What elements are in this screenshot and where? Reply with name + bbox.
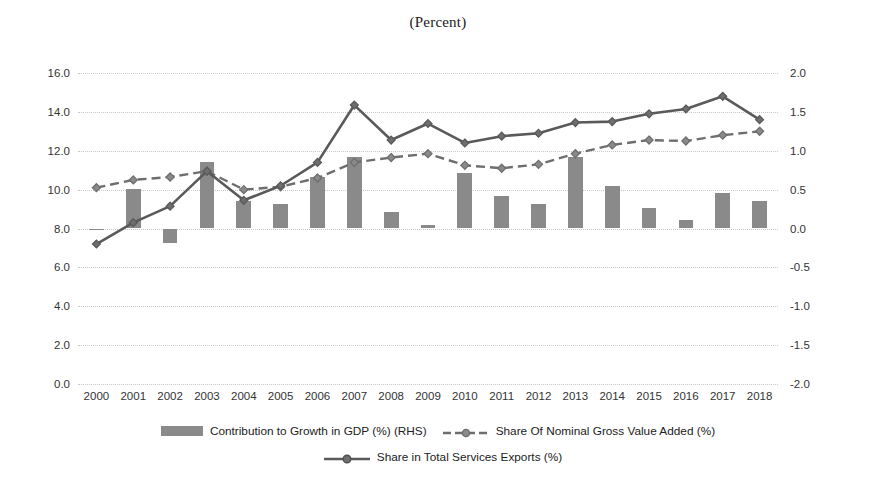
chart-root: (Percent) 16.014.012.010.08.06.04.02.00.… [0,0,876,504]
legend-label-contribution-to-growth: Contribution to Growth in GDP (%) (RHS) [210,424,427,438]
x-axis-tick-2015: 2015 [636,390,662,402]
data-point-2011[interactable] [498,132,506,140]
y-axis-left-tick: 10.0 [48,184,70,196]
chart-legend: Contribution to Growth in GDP (%) (RHS) … [0,418,876,470]
y-axis-right-tick: -1.5 [790,339,810,351]
y-axis-right-tick: -0.5 [790,261,810,273]
x-axis-tick-2018: 2018 [747,390,773,402]
data-point-2012[interactable] [535,129,543,137]
data-point-2000[interactable] [92,184,100,192]
bar-swatch-icon [161,426,203,436]
legend-item-contribution-to-growth[interactable]: Contribution to Growth in GDP (%) (RHS) [161,424,427,438]
x-axis-tick-2016: 2016 [673,390,699,402]
data-point-2008[interactable] [387,154,395,162]
x-axis-tick-2004: 2004 [231,390,257,402]
data-point-2014[interactable] [608,118,616,126]
x-axis-tick-2009: 2009 [415,390,441,402]
plot-area [78,73,778,384]
y-axis-right-tick: 1.5 [790,106,806,118]
line-series-layer [78,73,778,384]
data-point-2010[interactable] [461,161,469,169]
y-axis-right-tick: 1.0 [790,145,806,157]
x-axis-tick-2012: 2012 [526,390,552,402]
dashed-diamond-line-icon [443,425,489,437]
data-point-2009[interactable] [424,150,432,158]
line-path [96,96,759,244]
y-axis-right-tick: 2.0 [790,67,806,79]
y-axis-right-tick: 0.5 [790,184,806,196]
y-axis-right: 2.01.51.00.50.0-0.5-1.0-1.5-2.0 [790,73,836,384]
y-axis-left-tick: 12.0 [48,145,70,157]
y-axis-left: 16.014.012.010.08.06.04.02.00.0 [28,73,70,384]
data-point-2004[interactable] [240,186,248,194]
data-point-2013[interactable] [571,150,579,158]
x-axis-tick-2017: 2017 [710,390,736,402]
y-axis-right-tick: 0.0 [790,223,806,235]
x-axis-labels: 2000200120022003200420052006200720082009… [78,390,778,410]
data-point-2002[interactable] [166,173,174,181]
x-axis-tick-2005: 2005 [268,390,294,402]
legend-row-1: Contribution to Growth in GDP (%) (RHS) … [0,418,876,444]
y-axis-left-tick: 2.0 [54,339,70,351]
legend-item-nominal-gross-value-added[interactable]: Share Of Nominal Gross Value Added (%) [443,424,715,438]
data-point-2012[interactable] [535,160,543,168]
y-axis-left-tick: 6.0 [54,261,70,273]
y-axis-right-tick: -1.0 [790,300,810,312]
y-axis-left-tick: 14.0 [48,106,70,118]
legend-row-2: Share in Total Services Exports (%) [0,444,876,470]
data-point-2015[interactable] [645,110,653,118]
x-axis-tick-2003: 2003 [194,390,220,402]
y-axis-left-tick: 16.0 [48,67,70,79]
line-series-total-services-exports [93,92,764,248]
data-point-2006[interactable] [313,174,321,182]
legend-label-total-services-exports: Share in Total Services Exports (%) [377,450,562,464]
legend-label-nominal-gross-value-added: Share Of Nominal Gross Value Added (%) [496,424,715,438]
x-axis-tick-2001: 2001 [120,390,146,402]
chart-title: (Percent) [0,14,876,31]
data-point-2016[interactable] [682,137,690,145]
x-axis-tick-2013: 2013 [563,390,589,402]
y-axis-right-tick: -2.0 [790,378,810,390]
data-point-2014[interactable] [608,141,616,149]
data-point-2015[interactable] [645,136,653,144]
x-axis-tick-2010: 2010 [452,390,478,402]
x-axis-tick-2008: 2008 [378,390,404,402]
data-point-2001[interactable] [129,176,137,184]
x-axis-tick-2000: 2000 [84,390,110,402]
y-axis-left-tick: 4.0 [54,300,70,312]
x-axis-tick-2002: 2002 [157,390,183,402]
x-axis-tick-2007: 2007 [342,390,368,402]
x-axis-tick-2011: 2011 [489,390,514,402]
data-point-2017[interactable] [719,131,727,139]
y-axis-left-tick: 0.0 [54,378,70,390]
x-axis-tick-2006: 2006 [305,390,331,402]
solid-diamond-line-icon [324,451,370,463]
legend-item-total-services-exports[interactable]: Share in Total Services Exports (%) [324,450,562,464]
x-axis-tick-2014: 2014 [599,390,625,402]
data-point-2007[interactable] [350,158,358,166]
y-axis-left-tick: 8.0 [54,223,70,235]
data-point-2011[interactable] [498,164,506,172]
data-point-2018[interactable] [756,127,764,135]
data-point-2013[interactable] [571,119,579,127]
gridline [78,384,778,385]
data-point-2016[interactable] [682,105,690,113]
